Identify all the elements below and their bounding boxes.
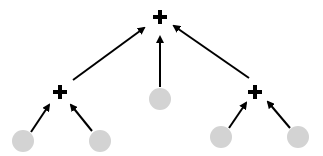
left-plus-icon xyxy=(53,85,67,99)
edge-leaf2-to-left xyxy=(71,105,92,131)
edge-left-to-root xyxy=(73,28,144,80)
center-leaf-node xyxy=(149,88,171,110)
leaf-node-1 xyxy=(12,130,34,152)
edge-leaf4-to-right xyxy=(268,102,290,128)
edge-leaf1-to-left xyxy=(31,105,49,132)
root-plus-icon xyxy=(153,10,167,24)
leaf-node-2 xyxy=(89,130,111,152)
tree-diagram xyxy=(0,0,323,156)
right-plus-icon xyxy=(248,85,262,99)
edge-right-to-root xyxy=(174,26,249,78)
leaf-node-3 xyxy=(210,126,232,148)
edge-leaf3-to-right xyxy=(229,103,246,128)
leaf-node-4 xyxy=(287,126,309,148)
